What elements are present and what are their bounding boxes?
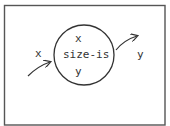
output-arrow-icon	[116, 36, 137, 50]
input-arrow-icon	[28, 62, 50, 76]
node-output-var: y	[75, 65, 82, 78]
output-label: y	[137, 48, 144, 61]
diagram-frame	[5, 6, 166, 126]
node-input-var: x	[75, 32, 82, 45]
input-label: x	[35, 47, 42, 60]
size-is-diagram: x size-is y x y	[0, 0, 170, 126]
node-label: size-is	[63, 48, 109, 61]
